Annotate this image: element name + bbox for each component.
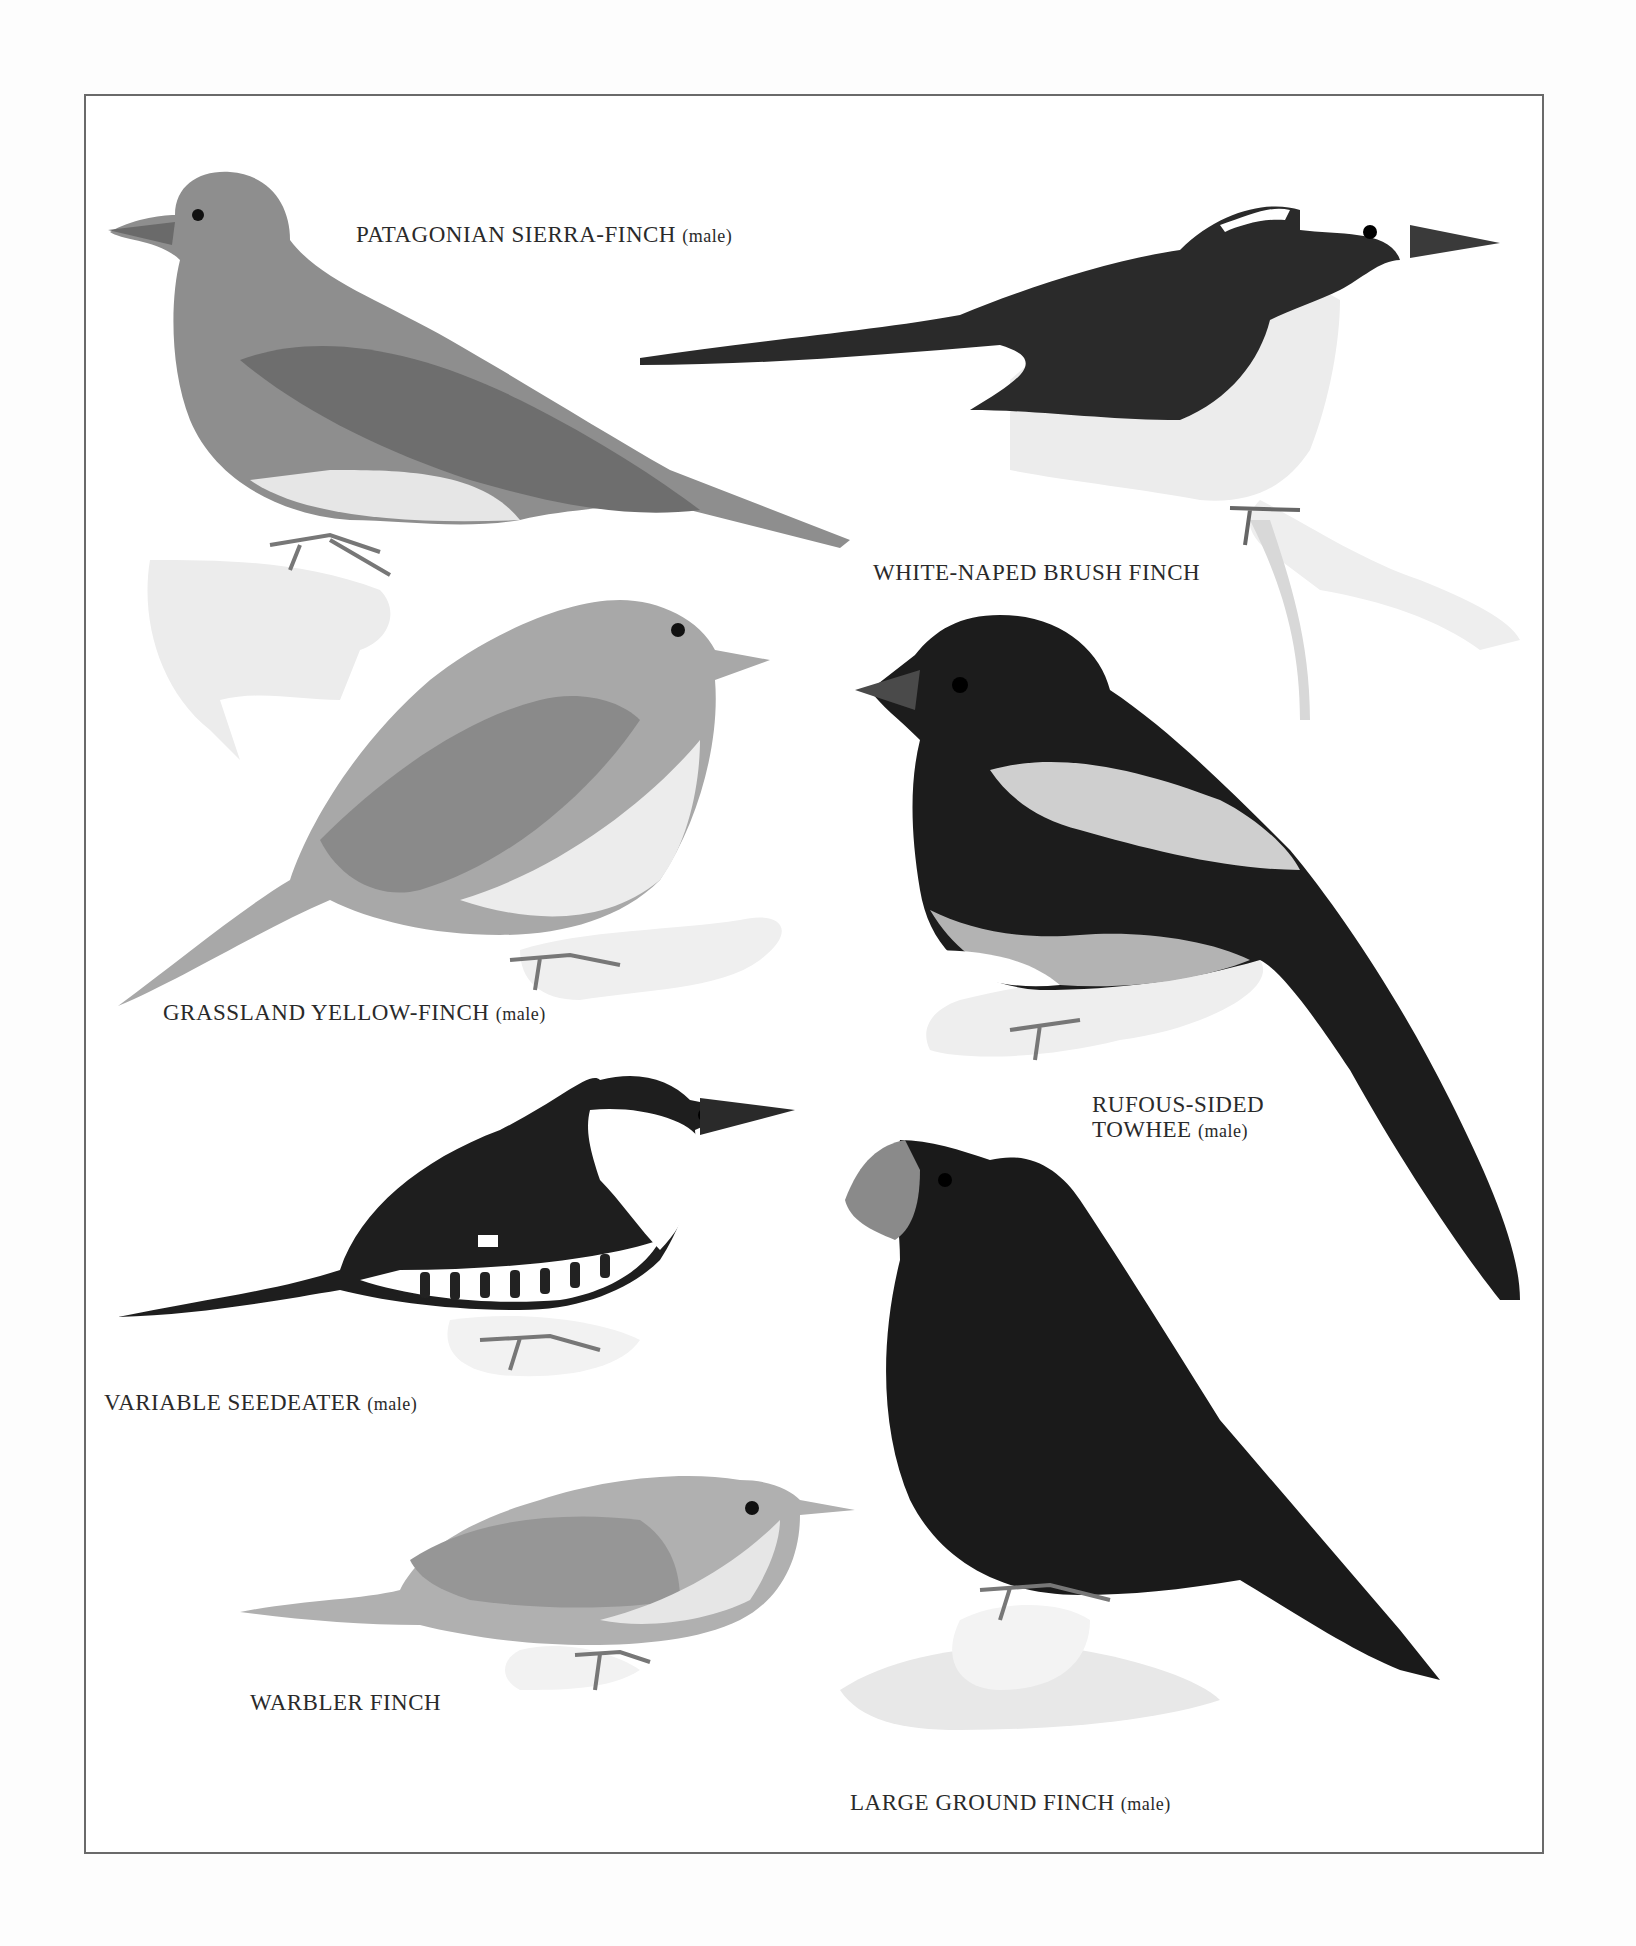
label-patagonian-sierra-finch: PATAGONIAN SIERRA-FINCH (male) xyxy=(356,222,732,247)
large-ground-finch-illustration xyxy=(840,1140,1440,1730)
variable-seedeater-illustration xyxy=(118,1076,795,1376)
bird-name: WHITE-NAPED BRUSH FINCH xyxy=(873,560,1200,585)
label-grassland-yellow-finch: GRASSLAND YELLOW-FINCH (male) xyxy=(163,1000,546,1025)
bird-name: PATAGONIAN SIERRA-FINCH xyxy=(356,222,676,247)
bird-qualifier: (male) xyxy=(1121,1794,1171,1814)
label-variable-seedeater: VARIABLE SEEDEATER (male) xyxy=(104,1390,417,1415)
label-large-ground-finch: LARGE GROUND FINCH (male) xyxy=(850,1790,1171,1815)
bird-qualifier: (male) xyxy=(367,1394,417,1414)
bird-name: WARBLER FINCH xyxy=(250,1690,441,1715)
warbler-finch-illustration xyxy=(240,1476,855,1690)
bird-illustrations xyxy=(0,0,1636,1946)
label-warbler-finch: WARBLER FINCH xyxy=(250,1690,441,1715)
bird-name: LARGE GROUND FINCH xyxy=(850,1790,1115,1815)
bird-qualifier: (male) xyxy=(496,1004,546,1024)
bird-name-line2: TOWHEE xyxy=(1092,1117,1192,1142)
bird-name: GRASSLAND YELLOW-FINCH xyxy=(163,1000,489,1025)
bird-qualifier: (male) xyxy=(682,226,732,246)
label-rufous-sided-towhee: RUFOUS-SIDED TOWHEE (male) xyxy=(1092,1092,1264,1143)
bird-name: VARIABLE SEEDEATER xyxy=(104,1390,361,1415)
label-white-naped-brush-finch: WHITE-NAPED BRUSH FINCH xyxy=(873,560,1200,585)
bird-name-line1: RUFOUS-SIDED xyxy=(1092,1092,1264,1117)
bird-qualifier: (male) xyxy=(1198,1121,1248,1141)
